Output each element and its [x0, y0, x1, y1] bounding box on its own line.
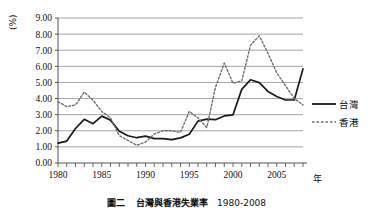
legend-label-hongkong: 香港	[339, 117, 359, 128]
y-axis-tick-label: 5.00	[35, 78, 52, 88]
caption-range: 1980-2008	[217, 198, 266, 208]
y-axis-tick-label: 0.00	[35, 158, 52, 168]
x-axis-tick-label: 1995	[180, 170, 199, 180]
x-axis-tick-label: 2005	[267, 170, 286, 180]
x-axis-tick-label: 2000	[224, 170, 243, 180]
caption-number: 圖二	[107, 198, 125, 208]
y-axis-tick-label: 2.00	[35, 126, 52, 136]
unemployment-rate-line-chart: 0.001.002.003.004.005.006.007.008.009.00…	[0, 0, 373, 211]
y-axis-tick-label: 4.00	[35, 94, 52, 104]
figure-caption: 圖二 台灣與香港失業率 1980-2008	[0, 196, 373, 209]
figure-container: 0.001.002.003.004.005.006.007.008.009.00…	[0, 0, 373, 211]
y-axis-tick-label: 6.00	[35, 62, 52, 72]
caption-title: 台灣與香港失業率	[136, 198, 208, 208]
y-axis-tick-label: 1.00	[35, 142, 52, 152]
y-axis-tick-label: 8.00	[35, 30, 52, 40]
y-axis-tick-label: 7.00	[35, 46, 52, 56]
y-axis-tick-label: 3.00	[35, 110, 52, 120]
y-axis-title: (%)	[8, 14, 18, 30]
x-axis-title: 年	[313, 173, 322, 184]
x-axis-tick-label: 1985	[92, 170, 111, 180]
x-axis-tick-label: 1980	[49, 170, 68, 180]
x-axis-tick-label: 1990	[136, 170, 155, 180]
legend-label-taiwan: 台灣	[339, 99, 359, 110]
y-axis-tick-label: 9.00	[35, 13, 52, 23]
